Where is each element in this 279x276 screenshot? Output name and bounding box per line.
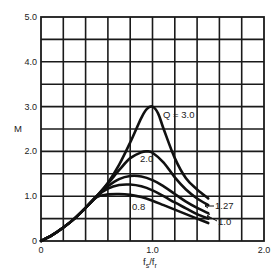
y-tick-label: 2.0 bbox=[24, 146, 37, 156]
y-tick-label: 4.0 bbox=[24, 57, 37, 67]
y-tick-label: 1.0 bbox=[24, 191, 37, 201]
y-tick-label: 3.0 bbox=[24, 102, 37, 112]
x-tick-label: 2.0 bbox=[258, 245, 271, 255]
x-axis-label-sub2: r bbox=[154, 262, 157, 269]
annotation-q1: 1.0 bbox=[218, 216, 231, 227]
x-tick-label: 0 bbox=[38, 245, 43, 255]
y-tick-label: 0 bbox=[32, 236, 37, 246]
annotation-q3: Q = 3.0 bbox=[163, 109, 194, 120]
x-axis-label: fs/fr bbox=[143, 256, 157, 269]
x-tick-label: 1.0 bbox=[146, 245, 159, 255]
annotation-q2: 2.0 bbox=[140, 153, 153, 164]
y-tick-label: 5.0 bbox=[24, 12, 37, 22]
annotation-q08: 0.8 bbox=[132, 201, 145, 212]
annotation-q127: 1.27 bbox=[215, 200, 234, 211]
y-axis-label: M bbox=[14, 123, 22, 134]
x-tick-labels: 01.02.0 bbox=[38, 245, 270, 255]
y-tick-labels: 01.02.03.04.05.0 bbox=[24, 12, 37, 246]
chart: 01.02.03.04.05.0 01.02.0 M fs/fr Q = 3.0… bbox=[0, 0, 279, 276]
